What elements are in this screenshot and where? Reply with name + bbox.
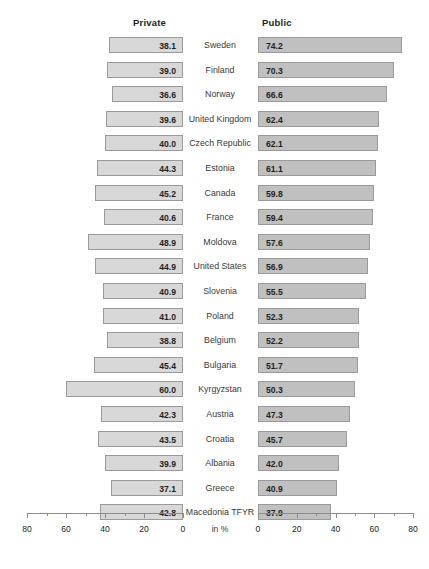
bar-private: 36.6 (112, 86, 183, 102)
bar-value-private: 45.4 (159, 358, 176, 374)
axis-tick-minor (394, 513, 395, 516)
bar-private: 43.5 (98, 431, 183, 447)
axis-tick-label-private: 40 (100, 524, 110, 534)
chart-row: 41.0Poland52.3 (0, 308, 429, 330)
country-label: Belgium (184, 332, 256, 348)
bar-public: 74.2 (258, 37, 402, 53)
bar-private: 38.1 (109, 37, 183, 53)
bar-value-public: 50.3 (266, 382, 283, 398)
chart-row: 38.8Belgium52.2 (0, 332, 429, 354)
bar-public: 52.3 (258, 308, 359, 324)
bar-private: 37.1 (111, 480, 183, 496)
chart-row: 44.9United States56.9 (0, 258, 429, 280)
axis-tick-major (27, 513, 28, 518)
bar-private: 40.6 (104, 209, 183, 225)
chart-row: 40.6France59.4 (0, 209, 429, 231)
bar-value-public: 66.6 (266, 87, 283, 103)
bar-private: 45.2 (95, 185, 183, 201)
country-label: Kyrgyzstan (184, 381, 256, 397)
bar-private: 60.0 (66, 381, 183, 397)
bar-value-private: 40.9 (159, 284, 176, 300)
bar-private: 39.9 (105, 455, 183, 471)
chart-row: 43.5Croatia45.7 (0, 431, 429, 453)
bar-private: 38.8 (107, 332, 183, 348)
bar-private: 44.9 (95, 258, 183, 274)
bar-value-private: 40.6 (159, 210, 176, 226)
bar-value-public: 57.6 (266, 235, 283, 251)
bar-private: 45.4 (94, 357, 183, 373)
axis-tick-label-public: 0 (256, 524, 261, 534)
bar-private: 39.6 (106, 111, 183, 127)
country-label: Canada (184, 185, 256, 201)
axis-tick-label-public: 20 (292, 524, 302, 534)
bar-public: 42.0 (258, 455, 339, 471)
axis-tick-label-public: 80 (408, 524, 418, 534)
bar-public: 45.7 (258, 431, 347, 447)
axis-tick-minor (47, 513, 48, 516)
axis-tick-minor (86, 513, 87, 516)
axis-tick-major (258, 513, 259, 518)
axis-tick-major (413, 513, 414, 518)
bar-value-public: 59.4 (266, 210, 283, 226)
axis-tick-major (66, 513, 67, 518)
bar-value-public: 56.9 (266, 259, 283, 275)
bar-public: 59.8 (258, 185, 374, 201)
country-label: United Kingdom (184, 111, 256, 127)
chart-row: 48.9Moldova57.6 (0, 234, 429, 256)
axis-tick-major (183, 513, 184, 518)
axis-tick-major (336, 513, 337, 518)
axis-tick-label-public: 60 (369, 524, 379, 534)
bar-value-private: 38.8 (159, 333, 176, 349)
bar-value-public: 61.1 (266, 161, 283, 177)
chart-row: 39.9Albania42.0 (0, 455, 429, 477)
country-label: Macedonia TFYR (184, 504, 256, 520)
axis-tick-minor (316, 513, 317, 516)
country-label: France (184, 209, 256, 225)
bar-value-private: 60.0 (159, 382, 176, 398)
axis-tick-major (105, 513, 106, 518)
country-label: Estonia (184, 160, 256, 176)
axis-tick-label-private: 20 (139, 524, 149, 534)
axis-tick-major (144, 513, 145, 518)
axis-tick-minor (125, 513, 126, 516)
bar-public: 62.1 (258, 135, 378, 151)
bar-value-private: 41.0 (159, 309, 176, 325)
country-label: Croatia (184, 431, 256, 447)
chart-row: 40.9Slovenia55.5 (0, 283, 429, 305)
country-label: Bulgaria (184, 357, 256, 373)
axis-tick-major (374, 513, 375, 518)
bar-value-public: 62.4 (266, 112, 283, 128)
axis-tick-label-private: 80 (22, 524, 32, 534)
bar-value-public: 74.2 (266, 38, 283, 54)
column-header-private: Private (133, 17, 166, 28)
bar-private: 39.0 (107, 62, 183, 78)
bar-value-private: 43.5 (159, 432, 176, 448)
bar-value-private: 39.9 (159, 456, 176, 472)
country-label: Austria (184, 406, 256, 422)
bar-public: 62.4 (258, 111, 379, 127)
chart-row: 45.2Canada59.8 (0, 185, 429, 207)
country-label: Poland (184, 308, 256, 324)
bar-value-private: 44.9 (159, 259, 176, 275)
chart-row: 36.6Norway66.6 (0, 86, 429, 108)
axis-tick-minor (355, 513, 356, 516)
bar-public: 55.5 (258, 283, 366, 299)
bar-value-public: 62.1 (266, 136, 283, 152)
country-label: Moldova (184, 234, 256, 250)
bar-public: 61.1 (258, 160, 376, 176)
chart-row: 39.6United Kingdom62.4 (0, 111, 429, 133)
bar-value-private: 39.0 (159, 63, 176, 79)
axis-tick-label-public: 40 (331, 524, 341, 534)
bar-public: 66.6 (258, 86, 387, 102)
bar-private: 44.3 (97, 160, 183, 176)
bar-value-public: 42.0 (266, 456, 283, 472)
bar-value-private: 39.6 (159, 112, 176, 128)
bar-public: 52.2 (258, 332, 359, 348)
bar-private: 48.9 (88, 234, 183, 250)
bar-value-public: 40.9 (266, 481, 283, 497)
bar-public: 47.3 (258, 406, 350, 422)
bar-value-private: 40.0 (159, 136, 176, 152)
bar-private: 40.0 (105, 135, 183, 151)
bar-value-private: 45.2 (159, 186, 176, 202)
axis-tick-minor (164, 513, 165, 516)
